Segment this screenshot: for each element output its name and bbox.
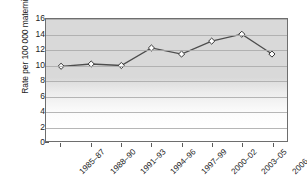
x-tick-mark [151, 143, 152, 147]
y-tick-label: 16 [31, 14, 45, 23]
y-axis-ticks: 0246810121416 [26, 18, 45, 142]
plot-area [45, 18, 288, 142]
x-tick-mark [60, 143, 61, 147]
x-tick-label: 2003–05 [261, 148, 289, 176]
gridline [46, 112, 287, 113]
gridline [46, 66, 287, 67]
x-tick-mark [182, 143, 183, 147]
y-tick-label: 12 [31, 45, 45, 54]
data-point-marker [209, 38, 215, 44]
x-tick-label: 1991–93 [139, 148, 167, 176]
gridline [46, 128, 287, 129]
gridline [46, 81, 287, 82]
series-plot [46, 19, 287, 141]
x-tick-mark [242, 143, 243, 147]
x-tick-mark [121, 143, 122, 147]
x-axis-labels: 1985–871988–901991–931994–961997–992000–… [45, 148, 288, 183]
x-tick-mark [91, 143, 92, 147]
x-tick-label: 1994–96 [170, 148, 198, 176]
gridline [46, 50, 287, 51]
x-tick-mark [273, 143, 274, 147]
y-tick-label: 2 [31, 123, 45, 132]
x-tick-label: 2006–08 [291, 148, 307, 176]
x-tick-label: 1988–90 [109, 148, 137, 176]
y-tick-label: 8 [31, 76, 45, 85]
y-tick-label: 6 [31, 92, 45, 101]
x-tick-mark [212, 143, 213, 147]
y-tick-label: 14 [31, 30, 45, 39]
gridline [46, 19, 287, 20]
line-chart: Rate per 100 000 maternities 02468101214… [0, 0, 307, 183]
y-tick-label: 10 [31, 61, 45, 70]
x-tick-label: 1985–87 [79, 148, 107, 176]
y-tick-label: 4 [31, 107, 45, 116]
y-tick-label: 0 [31, 138, 45, 147]
x-tick-label: 2000–02 [230, 148, 258, 176]
gridline [46, 97, 287, 98]
gridline [46, 35, 287, 36]
x-tick-label: 1997–99 [200, 148, 228, 176]
data-point-marker [178, 51, 184, 57]
